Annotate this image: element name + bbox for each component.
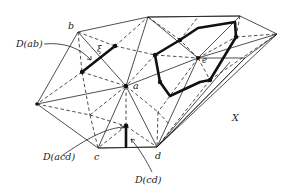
label-c: c (94, 151, 100, 162)
outer-hull (37, 16, 277, 148)
dual-cells-highlighted (82, 22, 236, 147)
triangulation-edges (37, 16, 277, 148)
voronoi-delaunay-diagram: b ξ a e c d X D(ab) D(acd) D(cd) (0, 0, 295, 192)
dual-edges (37, 16, 277, 148)
label-x: X (231, 112, 240, 123)
label-d-cd: D(cd) (134, 174, 162, 185)
d-ab-arrow (44, 44, 91, 60)
labels: b ξ a e c d X D(ab) D(acd) D(cd) (15, 20, 240, 185)
label-e: e (202, 55, 207, 65)
label-d-ab: D(ab) (15, 38, 43, 49)
d-cd-arrow (131, 139, 152, 172)
label-d-acd: D(acd) (42, 151, 75, 162)
label-b: b (68, 20, 74, 31)
label-a: a (133, 80, 139, 91)
label-xi: ξ (97, 44, 103, 54)
label-d: d (155, 150, 161, 161)
